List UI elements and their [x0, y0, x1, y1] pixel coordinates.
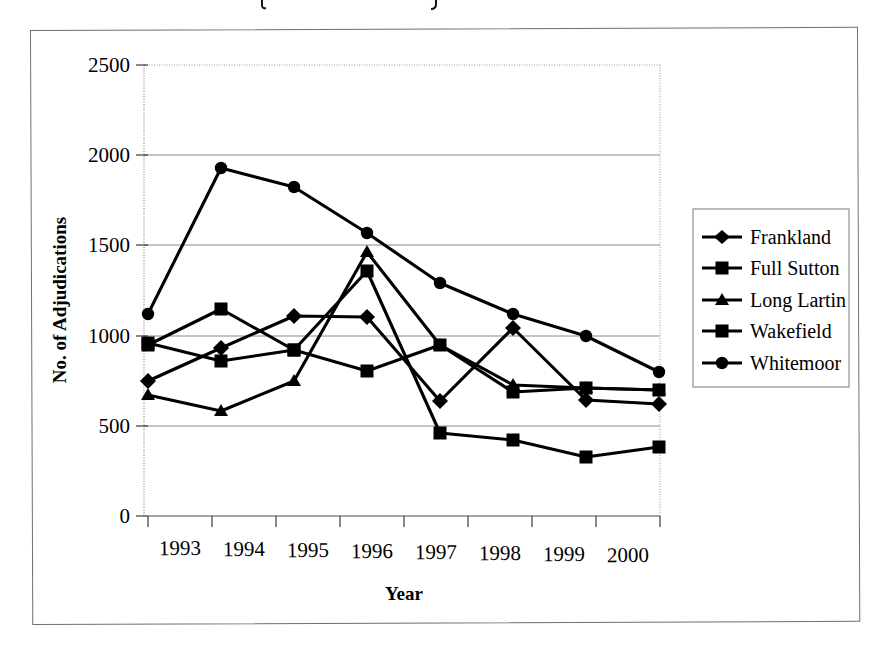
y-tick-labels: 2500 2000 1500 1000 500 0 — [88, 53, 130, 528]
x-tick-2000: 2000 — [607, 543, 649, 567]
point-whitemoor-1997 — [434, 277, 446, 289]
point-frankland-1994 — [213, 340, 229, 356]
y-tickmarks — [136, 65, 148, 516]
point-longlartin-1995 — [287, 374, 301, 386]
axis-lines — [144, 65, 660, 516]
legend-label-wakefield: Wakefield — [750, 320, 832, 342]
point-fullsutton-1996 — [361, 265, 374, 278]
legend-label-full-sutton: Full Sutton — [750, 257, 839, 279]
x-tick-1996: 1996 — [351, 539, 393, 563]
point-whitemoor-1996 — [361, 227, 373, 239]
point-wakefield-2000 — [653, 384, 666, 397]
point-frankland-1993 — [140, 373, 156, 389]
x-tick-labels: 1993 1994 1995 1996 1997 1998 1999 2000 — [159, 536, 649, 567]
point-fullsutton-1993 — [142, 339, 155, 352]
x-tick-1998: 1998 — [479, 541, 521, 565]
square-icon — [716, 325, 729, 338]
legend-label-frankland: Frankland — [750, 226, 831, 248]
point-whitemoor-1995 — [288, 181, 300, 193]
point-wakefield-1998 — [507, 386, 520, 399]
point-wakefield-1996 — [361, 365, 374, 378]
gridlines — [144, 65, 660, 426]
y-tick-1000: 1000 — [88, 324, 130, 348]
point-whitemoor-2000 — [653, 366, 665, 378]
y-tick-2000: 2000 — [88, 143, 130, 167]
x-tickmarks — [148, 516, 660, 527]
figure-page: 2500 2000 1500 1000 500 0 1 — [0, 0, 885, 665]
legend: Frankland Full Sutton Long Lartin — [693, 209, 849, 387]
y-tick-2500: 2500 — [88, 53, 130, 77]
x-tick-1994: 1994 — [223, 537, 266, 561]
y-axis-title: No. of Adjudications — [49, 217, 70, 383]
x-tick-1999: 1999 — [543, 542, 585, 566]
point-fullsutton-1997 — [434, 427, 447, 440]
point-fullsutton-1998 — [507, 434, 520, 447]
point-whitemoor-1998 — [507, 308, 519, 320]
circle-icon — [716, 357, 728, 369]
point-fullsutton-1994 — [215, 303, 228, 316]
point-wakefield-1994 — [215, 355, 228, 368]
point-whitemoor-1994 — [215, 162, 227, 174]
point-whitemoor-1999 — [580, 330, 592, 342]
y-tick-0: 0 — [120, 504, 131, 528]
x-axis-title: Year — [385, 583, 424, 604]
square-icon — [716, 262, 729, 275]
point-longlartin-1993 — [141, 388, 155, 400]
line-chart: 2500 2000 1500 1000 500 0 1 — [0, 0, 885, 665]
point-whitemoor-1993 — [142, 308, 154, 320]
point-frankland-1995 — [286, 308, 302, 324]
point-fullsutton-1995 — [288, 344, 301, 357]
legend-label-long-lartin: Long Lartin — [750, 289, 846, 312]
x-tick-1993: 1993 — [159, 536, 201, 560]
chart-canvas: 2500 2000 1500 1000 500 0 1 — [0, 0, 885, 665]
y-tick-1500: 1500 — [88, 233, 130, 257]
point-longlartin-1996 — [360, 245, 374, 257]
point-fullsutton-2000 — [653, 441, 666, 454]
point-frankland-2000 — [651, 396, 667, 412]
legend-label-whitemoor: Whitemoor — [750, 352, 841, 374]
y-tick-500: 500 — [99, 414, 131, 438]
point-wakefield-1997 — [434, 339, 447, 352]
point-fullsutton-1999 — [580, 451, 593, 464]
x-tick-1995: 1995 — [287, 538, 329, 562]
x-tick-1997: 1997 — [415, 540, 457, 564]
